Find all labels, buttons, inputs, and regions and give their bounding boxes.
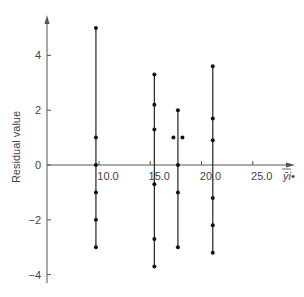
data-point xyxy=(176,108,180,112)
data-point xyxy=(180,136,184,140)
y-axis-label: Residual value xyxy=(10,111,22,183)
y-tick-label: 0 xyxy=(35,159,41,171)
x-axis-arrow-icon xyxy=(286,163,295,168)
x-axis-label: ȳi• xyxy=(282,170,295,182)
x-tick-label: 10.0 xyxy=(97,170,118,182)
residual-group xyxy=(211,64,215,254)
x-tick-label: 20.0 xyxy=(200,170,221,182)
data-point xyxy=(94,163,98,167)
data-point xyxy=(211,196,215,200)
data-point xyxy=(152,182,156,186)
x-tick-label: 25.0 xyxy=(251,170,272,182)
data-point xyxy=(94,218,98,222)
x-tick-label: 15.0 xyxy=(149,170,170,182)
y-tick-label: 2 xyxy=(35,104,41,116)
data-point xyxy=(211,138,215,142)
data-point xyxy=(211,64,215,68)
data-point xyxy=(152,127,156,131)
data-point xyxy=(176,190,180,194)
data-point xyxy=(94,245,98,249)
data-point xyxy=(152,103,156,107)
residual-plot: 420−2−410.015.020.025.0ȳi•Residual value xyxy=(0,0,304,297)
residual-group xyxy=(94,26,98,249)
data-point xyxy=(211,223,215,227)
y-tick-label: −4 xyxy=(28,269,41,281)
data-point xyxy=(176,245,180,249)
data-point xyxy=(211,251,215,255)
y-axis-arrow-icon xyxy=(45,15,50,24)
y-tick-label: −2 xyxy=(28,214,41,226)
data-point xyxy=(94,26,98,30)
data-point xyxy=(152,73,156,77)
data-point xyxy=(171,136,175,140)
data-point xyxy=(94,190,98,194)
data-point xyxy=(152,264,156,268)
data-point xyxy=(94,136,98,140)
data-point xyxy=(152,237,156,241)
data-point xyxy=(176,163,180,167)
y-tick-label: 4 xyxy=(35,49,41,61)
data-point xyxy=(211,116,215,120)
residual-group xyxy=(171,108,184,249)
